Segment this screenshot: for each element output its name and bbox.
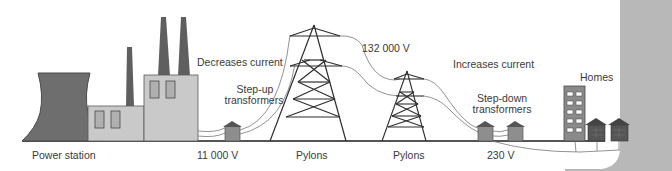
- label-voltage-11000: 11 000 V: [197, 149, 238, 161]
- label-power-station: Power station: [32, 149, 96, 161]
- label-homes: Homes: [580, 71, 613, 83]
- wire: [198, 128, 225, 132]
- apartment-block: [564, 86, 585, 141]
- step-down-transformer-1: [476, 121, 495, 141]
- label-pylons-1: Pylons: [296, 149, 328, 161]
- label-decreases-current: Decreases current: [197, 56, 283, 68]
- home-feed: [575, 141, 576, 152]
- pylon-small: [382, 71, 426, 141]
- chimney-tall-2: [178, 17, 190, 76]
- wire: [198, 133, 225, 137]
- step-down-transformer-2: [506, 121, 525, 141]
- label-increases-current: Increases current: [453, 58, 534, 70]
- wire: [493, 135, 508, 136]
- house-1: [585, 118, 607, 141]
- label-step-up-line2: transformers: [214, 94, 294, 106]
- window: [150, 81, 159, 98]
- power-grid-diagram: Power station 11 000 V Decreases current…: [0, 0, 672, 171]
- chimney-tall-1: [158, 17, 170, 76]
- wire: [493, 130, 508, 132]
- wire: [342, 66, 400, 96]
- window: [111, 111, 120, 128]
- label-voltage-230: 230 V: [487, 149, 514, 161]
- label-voltage-132000: 132 000 V: [362, 42, 410, 54]
- window: [95, 111, 104, 128]
- label-pylons-2: Pylons: [393, 149, 425, 161]
- window: [166, 81, 175, 98]
- step-up-transformer: [223, 121, 242, 141]
- label-step-down-line2: transformers: [464, 103, 540, 115]
- chimney-small: [126, 47, 134, 106]
